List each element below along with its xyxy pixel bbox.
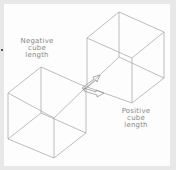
positive-cube-icon [87, 12, 164, 103]
negative-cube-icon [8, 67, 86, 158]
edge-mark [1, 49, 3, 51]
negative-cube-length-label: Negative cube length [15, 38, 59, 59]
diagram-frame: Negative cube length Positive cube lengt… [0, 0, 176, 170]
cube-diagram [0, 0, 176, 170]
positive-cube-length-label: Positive cube length [114, 108, 158, 129]
